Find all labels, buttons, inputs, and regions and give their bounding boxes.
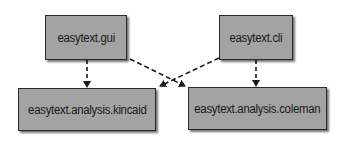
module-node-easytext-analysis-kincaid: easytext.analysis.kincaid xyxy=(18,88,156,131)
module-label: easytext.gui xyxy=(57,31,114,45)
module-label: easytext.analysis.kincaid xyxy=(28,103,146,117)
module-label: easytext.analysis.coleman xyxy=(195,102,321,116)
edge-gui-to-coleman xyxy=(130,59,185,86)
diagram-canvas: easytext.gui easytext.cli easytext.analy… xyxy=(0,0,346,144)
module-node-easytext-cli: easytext.cli xyxy=(219,15,293,60)
module-label: easytext.cli xyxy=(230,31,283,45)
module-node-easytext-gui: easytext.gui xyxy=(45,15,127,60)
module-node-easytext-analysis-coleman: easytext.analysis.coleman xyxy=(188,87,327,130)
edge-cli-to-kincaid xyxy=(160,58,219,86)
